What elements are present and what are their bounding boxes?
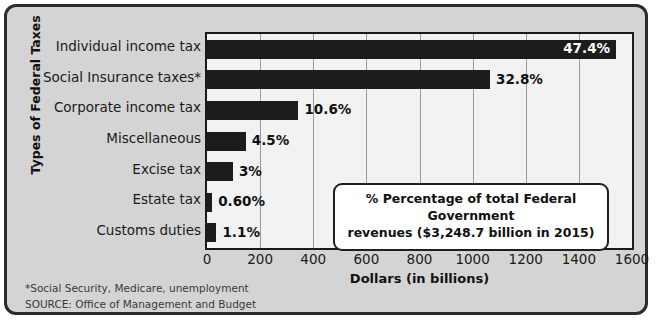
category-label: Individual income tax (41, 40, 201, 54)
x-axis-tick: 0 (203, 253, 212, 267)
footnote-note: *Social Security, Medicare, unemployment (25, 281, 256, 297)
category-label: Corporate income tax (41, 101, 201, 115)
bar (207, 162, 233, 181)
bar-value-label: 4.5% (252, 134, 289, 148)
bar-row: 10.6% (207, 101, 632, 120)
bar-value-label: 1.1% (222, 226, 259, 240)
chart-frame: Types of Federal Taxes Individual income… (4, 4, 648, 315)
x-axis-tick: 1000 (455, 253, 489, 267)
category-label: Customs duties (41, 224, 201, 238)
bar (207, 193, 212, 212)
footnote-source: SOURCE: Office of Management and Budget (25, 297, 256, 313)
callout-line-2: revenues ($3,248.7 billion in 2015) (343, 225, 599, 242)
bar-value-label: 47.4% (563, 43, 610, 57)
category-label-list: Individual income taxSocial Insurance ta… (39, 32, 201, 250)
bar-row: 4.5% (207, 132, 632, 151)
callout-line-1: % Percentage of total Federal Government (343, 191, 599, 225)
category-label: Miscellaneous (41, 132, 201, 146)
bar (207, 40, 616, 59)
bar (207, 101, 298, 120)
bar-row: 32.8% (207, 70, 632, 89)
bar-row: 3% (207, 162, 632, 181)
bar (207, 70, 490, 89)
bar-value-label: 3% (239, 165, 262, 179)
category-label: Social Insurance taxes* (41, 71, 201, 85)
x-axis-tick: 1600 (615, 253, 649, 267)
x-axis-tick-labels: 02004006008001000120014001600 (205, 253, 634, 273)
bar-value-label: 0.60% (218, 195, 265, 209)
x-axis-tick: 1200 (509, 253, 543, 267)
bar (207, 223, 216, 242)
category-label: Estate tax (41, 193, 201, 207)
x-axis-tick: 800 (407, 253, 433, 267)
bar-value-label: 32.8% (496, 73, 543, 87)
x-axis-title: Dollars (in billions) (205, 271, 634, 286)
x-axis-tick: 1400 (562, 253, 596, 267)
x-axis-tick: 400 (300, 253, 326, 267)
chart-figure: Types of Federal Taxes Individual income… (0, 0, 660, 327)
bar-row: 47.4% (207, 40, 632, 59)
percentage-callout-box: % Percentage of total Federal Government… (333, 183, 609, 251)
bar (207, 132, 246, 151)
bar-value-label: 10.6% (304, 104, 351, 118)
footnotes: *Social Security, Medicare, unemployment… (25, 281, 256, 313)
category-label: Excise tax (41, 163, 201, 177)
x-axis-tick: 200 (247, 253, 273, 267)
x-axis-tick: 600 (353, 253, 379, 267)
